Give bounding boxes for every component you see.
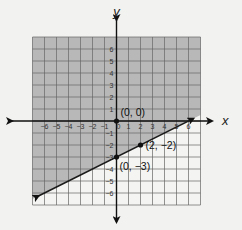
x-tick-label: 0 bbox=[117, 123, 121, 130]
x-tick-label: 3 bbox=[151, 123, 155, 130]
x-tick-label: −6 bbox=[41, 123, 49, 130]
x-tick-label: −3 bbox=[77, 123, 85, 130]
point-label: (0, −3) bbox=[120, 160, 151, 172]
point-label: (2, −2) bbox=[146, 139, 177, 151]
point-marker bbox=[138, 142, 143, 147]
y-tick-label: 3 bbox=[110, 82, 114, 89]
x-tick-label: 2 bbox=[139, 123, 143, 130]
y-axis-label: y bbox=[112, 4, 121, 19]
x-tick-label: 4 bbox=[163, 123, 167, 130]
point-label: (0, 0) bbox=[121, 106, 146, 118]
y-tick-label: −5 bbox=[106, 178, 114, 185]
point-marker bbox=[114, 118, 119, 123]
x-tick-label: −5 bbox=[53, 123, 61, 130]
y-tick-label: −6 bbox=[106, 190, 114, 197]
graph-canvas: −6−5−4−3−2−10123456 654321−1−2−3−4−5−6 (… bbox=[0, 0, 242, 230]
y-tick-label: 6 bbox=[110, 46, 114, 53]
x-axis-label: x bbox=[221, 113, 229, 128]
x-tick-label: 1 bbox=[127, 123, 131, 130]
y-tick-label: 4 bbox=[110, 70, 114, 77]
y-tick-label: 1 bbox=[110, 106, 114, 113]
x-tick-label: −4 bbox=[65, 123, 73, 130]
y-tick-label: 5 bbox=[110, 58, 114, 65]
y-tick-label: −4 bbox=[106, 166, 114, 173]
x-tick-label: −2 bbox=[89, 123, 97, 130]
point-marker bbox=[114, 154, 119, 159]
y-tick-label: −2 bbox=[106, 142, 114, 149]
x-tick-label: 6 bbox=[187, 123, 191, 130]
y-tick-label: −1 bbox=[106, 130, 114, 137]
y-tick-label: 2 bbox=[110, 94, 114, 101]
